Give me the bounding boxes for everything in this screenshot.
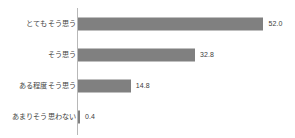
category-label: とてもそう思う — [26, 20, 76, 28]
bar-rows: とてもそう思う 52.0 そう思う 32.8 ある程度そう思う 14.8 — [0, 8, 295, 132]
bar-value-label: 52.0 — [268, 20, 282, 27]
category-label: そう思う — [48, 51, 76, 59]
bar-track: 32.8 — [78, 48, 292, 61]
bar-value-label: 0.4 — [85, 113, 95, 120]
bar — [78, 48, 195, 61]
bar — [78, 79, 131, 92]
plot-area: とてもそう思う 52.0 そう思う 32.8 ある程度そう思う 14.8 — [0, 0, 295, 138]
horizontal-bar-chart: とてもそう思う 52.0 そう思う 32.8 ある程度そう思う 14.8 — [0, 0, 295, 138]
bar-track: 0.4 — [78, 110, 292, 123]
category-label: ある程度そう思う — [19, 82, 76, 90]
bar-track: 52.0 — [78, 17, 292, 30]
bar — [78, 17, 263, 30]
bar-row: あまりそう思わない 0.4 — [0, 101, 295, 132]
bar-value-label: 14.8 — [136, 82, 150, 89]
bar-row: ある程度そう思う 14.8 — [0, 70, 295, 101]
bar-row: とてもそう思う 52.0 — [0, 8, 295, 39]
bar-row: そう思う 32.8 — [0, 39, 295, 70]
category-label: あまりそう思わない — [12, 113, 76, 121]
bar-track: 14.8 — [78, 79, 292, 92]
bar-value-label: 32.8 — [200, 51, 214, 58]
bar — [78, 110, 80, 123]
